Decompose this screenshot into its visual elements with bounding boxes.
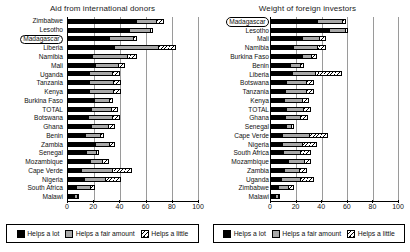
plot-wrap-right: MadagascarLesothoMaliNamibiaBurkina Faso… xyxy=(205,17,410,209)
bar-segment xyxy=(90,159,102,164)
legend-label: Helps a little xyxy=(358,230,395,237)
category-label: South Africa xyxy=(2,184,65,193)
bar-segment xyxy=(95,63,118,68)
stacked-bar xyxy=(68,28,173,33)
stacked-bar xyxy=(271,185,326,190)
bar-segment xyxy=(271,159,288,164)
legend-right: Helps a lotHelps a fair amountHelps a li… xyxy=(213,224,405,243)
stacked-bar xyxy=(271,133,356,138)
bar-segment xyxy=(114,45,158,50)
bar-row xyxy=(271,157,398,166)
bar-row xyxy=(271,26,398,35)
category-label-text: Botswana xyxy=(34,115,63,122)
bar-row xyxy=(271,17,398,26)
bar-row xyxy=(68,192,198,201)
stacked-bar xyxy=(271,177,345,182)
bar-segment xyxy=(68,89,89,94)
bar-row xyxy=(68,175,198,184)
bar-segment xyxy=(285,115,300,120)
bar-segment xyxy=(86,150,96,155)
bar-segment xyxy=(68,54,92,59)
bar-segment xyxy=(158,45,176,50)
bar-segment xyxy=(112,115,119,120)
bar-segment xyxy=(68,185,76,190)
stacked-bar xyxy=(68,133,137,138)
category-label: Mozambique xyxy=(208,158,271,167)
axis-tick-label: 60 xyxy=(343,203,351,210)
bar-segment xyxy=(102,159,109,164)
category-label: Madagascar xyxy=(208,17,271,27)
bar-row xyxy=(68,166,198,175)
bar-segment xyxy=(290,63,300,68)
x-axis-left: 020406080100 xyxy=(67,203,198,217)
bar-row xyxy=(271,113,398,122)
bar-row xyxy=(271,78,398,87)
bar-row xyxy=(271,148,398,157)
bar-segment xyxy=(68,115,88,120)
category-label: Kenya xyxy=(2,88,65,97)
bar-segment xyxy=(68,107,91,112)
bar-row xyxy=(271,61,398,70)
bar-segment xyxy=(68,142,95,147)
category-label-text: Burkina Faso xyxy=(24,98,63,105)
bar-segment xyxy=(271,177,281,182)
bar-segment xyxy=(278,185,289,190)
bar-segment xyxy=(112,71,119,76)
bar-segment xyxy=(286,80,305,85)
stacked-bar xyxy=(68,36,163,41)
stacked-bar xyxy=(68,80,151,85)
category-label-text: Kenya xyxy=(250,98,269,105)
bar-segment xyxy=(68,19,136,24)
stacked-bar xyxy=(68,71,150,76)
category-label: Benin xyxy=(208,62,271,71)
bar-segment xyxy=(109,142,114,147)
stacked-bar xyxy=(271,45,355,50)
chart-title-right: Weight of foreign investors xyxy=(205,4,410,13)
category-label-text: Madagascar xyxy=(226,17,269,27)
category-label-text: Liberia xyxy=(249,72,269,79)
bar-segment xyxy=(77,194,79,199)
category-label: Lesotho xyxy=(208,27,271,36)
bar-segment xyxy=(288,159,304,164)
category-label: Nigeria xyxy=(2,176,65,185)
chart-panel-aid: Aid from international donors ZimbabweLe… xyxy=(0,0,205,252)
bar-row xyxy=(68,105,198,114)
category-label-text: Tanzania xyxy=(243,89,269,96)
stacked-bar xyxy=(68,107,149,112)
category-label: Senegal xyxy=(2,149,65,158)
category-label-text: TOTAL xyxy=(248,107,269,114)
bar-segment xyxy=(271,168,284,173)
axis-tick-label: 80 xyxy=(168,203,176,210)
category-label: Senegal xyxy=(208,123,271,132)
bar-segment xyxy=(95,142,110,147)
bar-segment xyxy=(271,80,286,85)
bar-segment xyxy=(94,98,109,103)
bar-row xyxy=(68,122,198,131)
bar-segment xyxy=(96,150,99,155)
stacked-bar xyxy=(68,89,151,94)
bar-segment xyxy=(91,107,110,112)
legend-item: Helps a lot xyxy=(17,230,60,238)
legend-swatch-icon xyxy=(17,230,25,238)
bar-segment xyxy=(271,98,284,103)
stacked-bar xyxy=(271,28,370,33)
bar-segment xyxy=(302,98,310,103)
bar-segment xyxy=(81,168,112,173)
category-label: Mozambique xyxy=(2,158,65,167)
category-label-text: Mali xyxy=(257,36,269,43)
legend-item: Helps a little xyxy=(347,230,395,238)
stacked-bar xyxy=(68,115,150,120)
bar-segment xyxy=(68,28,129,33)
stacked-bar xyxy=(68,98,145,103)
bar-segment xyxy=(90,185,96,190)
bar-segment xyxy=(342,19,346,24)
bar-segment xyxy=(299,168,306,173)
category-label: Zambia xyxy=(2,141,65,150)
bar-segment xyxy=(68,133,85,138)
bar-segment xyxy=(129,28,150,33)
bar-segment xyxy=(271,71,292,76)
bar-row xyxy=(68,70,198,79)
gridline xyxy=(398,17,399,201)
bar-segment xyxy=(85,133,99,138)
bar-segment xyxy=(302,142,316,147)
